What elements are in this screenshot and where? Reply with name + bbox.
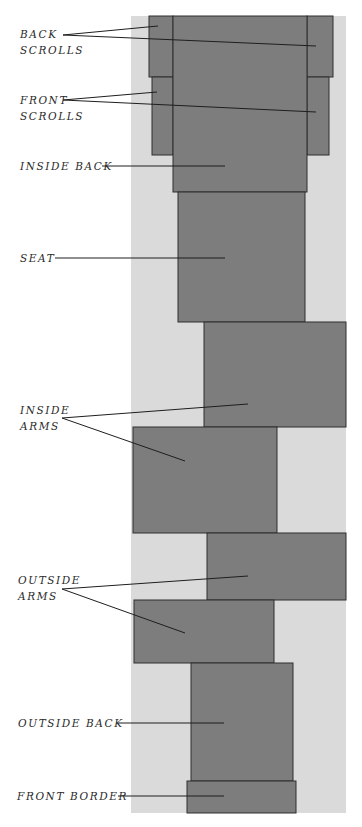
inside-arm-2 bbox=[133, 427, 277, 533]
outside-back-piece bbox=[191, 663, 293, 781]
fabric-cutting-diagram: BACK SCROLLS FRONT SCROLLS INSIDE BACK S… bbox=[0, 0, 362, 827]
front-border-piece bbox=[187, 781, 296, 813]
back-scroll-left bbox=[149, 16, 173, 77]
label-front-scrolls: FRONT SCROLLS bbox=[19, 94, 84, 122]
outside-arm-1 bbox=[207, 533, 346, 600]
inside-arm-1 bbox=[204, 322, 346, 427]
front-scroll-left bbox=[152, 77, 173, 155]
back-scroll-right bbox=[307, 16, 333, 77]
label-back-scrolls: BACK SCROLLS bbox=[19, 28, 84, 56]
front-scroll-right bbox=[307, 77, 329, 155]
label-inside-back: INSIDE BACK bbox=[19, 160, 113, 172]
seat-piece bbox=[178, 192, 305, 322]
label-outside-back: OUTSIDE BACK bbox=[18, 717, 124, 729]
label-front-border: FRONT BORDER bbox=[16, 790, 128, 802]
label-seat: SEAT bbox=[20, 252, 55, 264]
outside-arm-2 bbox=[134, 600, 274, 663]
